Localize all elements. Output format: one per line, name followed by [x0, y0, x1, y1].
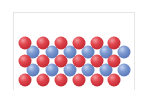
red-atom [73, 37, 86, 50]
red-atom [73, 55, 86, 68]
red-atom [91, 74, 104, 87]
red-atom [37, 55, 50, 68]
red-atom [55, 55, 68, 68]
red-atom [91, 37, 104, 50]
red-atom [108, 74, 121, 87]
red-atom [108, 55, 121, 68]
red-atom [19, 74, 32, 87]
red-atom [37, 74, 50, 87]
blue-atom [118, 64, 131, 77]
red-atom [55, 37, 68, 50]
red-atom [108, 37, 121, 50]
red-atom [19, 55, 32, 68]
red-atom [73, 74, 86, 87]
red-atom [55, 74, 68, 87]
red-atom [19, 37, 32, 50]
red-atom [91, 55, 104, 68]
red-atom [37, 37, 50, 50]
